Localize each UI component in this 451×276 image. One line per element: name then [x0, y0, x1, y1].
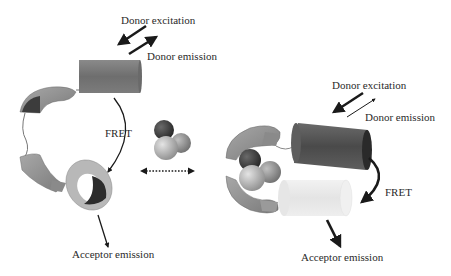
- left-upper-domain: [20, 87, 80, 113]
- right-donor-cylinder: [291, 123, 372, 170]
- right-donor-excitation-label: Donor excitation: [332, 80, 406, 91]
- right-sensor-closed-state: [226, 93, 379, 246]
- left-acceptor-emission-label: Acceptor emission: [72, 249, 154, 260]
- right-acceptor-cylinder: [278, 180, 352, 216]
- left-fret-label: FRET: [105, 128, 132, 139]
- calcium-ion-cluster: [154, 120, 191, 160]
- right-acceptor-emission-arrow: [327, 220, 340, 246]
- right-acceptor-emission-label: Acceptor emission: [301, 252, 383, 263]
- left-lower-domain: [20, 154, 66, 192]
- left-acceptor-emission-arrow: [98, 215, 108, 247]
- diagram-canvas: [0, 0, 451, 276]
- left-donor-cylinder: [79, 60, 142, 93]
- reversible-transition-arrow: [140, 168, 195, 175]
- left-donor-excitation-arrow: [119, 26, 146, 44]
- left-acceptor-cylinder: [57, 151, 121, 218]
- bound-calcium-ions: [239, 149, 281, 191]
- right-donor-emission-label: Donor emission: [365, 112, 435, 123]
- right-fret-label: FRET: [385, 187, 412, 198]
- left-donor-emission-label: Donor emission: [147, 51, 217, 62]
- left-linker: [23, 113, 34, 159]
- left-donor-excitation-label: Donor excitation: [121, 15, 195, 26]
- left-sensor-open-state: [20, 26, 156, 247]
